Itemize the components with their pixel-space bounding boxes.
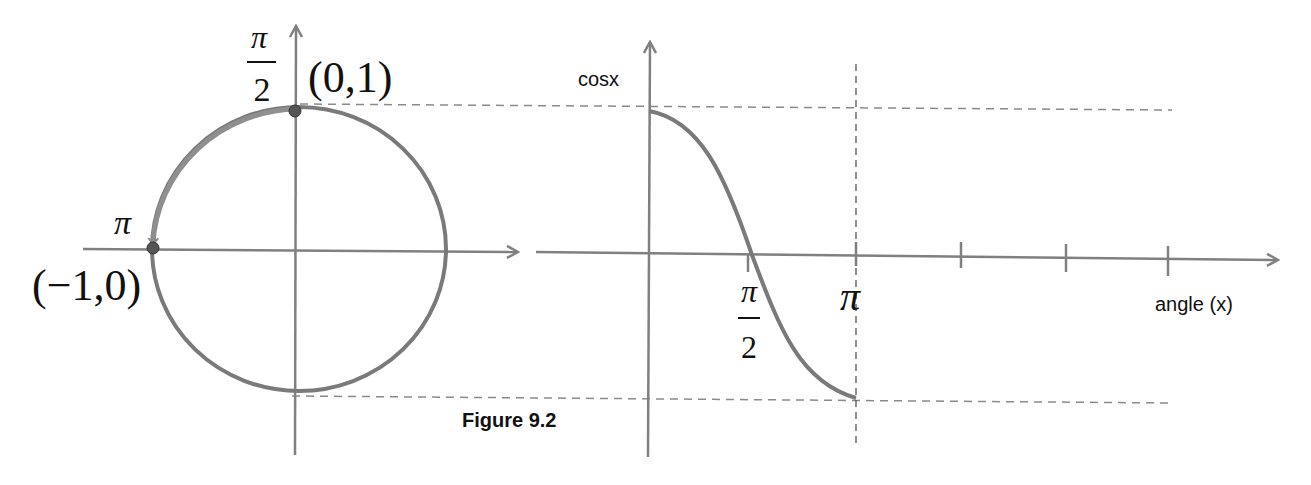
tick-label-half-pi-numerator: π bbox=[741, 273, 758, 309]
arc-arrow bbox=[153, 109, 297, 244]
tick-label-pi: π bbox=[840, 274, 861, 319]
y-axis-label: cosx bbox=[578, 68, 619, 90]
graph-y-axis bbox=[648, 42, 650, 457]
point-top bbox=[289, 105, 301, 117]
graph-x-axis bbox=[536, 252, 1278, 260]
figure-canvas: π 2 (0,1) π (−1,0) cosx angle (x) π 2 π … bbox=[0, 0, 1311, 485]
unit-circle-diagram: π 2 (0,1) π (−1,0) bbox=[32, 19, 518, 455]
reference-lines bbox=[292, 64, 1172, 448]
dashed-line-bottom bbox=[292, 396, 1172, 403]
left-angle-label: π bbox=[114, 204, 132, 241]
top-point-label: (0,1) bbox=[308, 53, 392, 102]
point-left bbox=[147, 242, 159, 254]
top-angle-numerator: π bbox=[251, 19, 268, 55]
figure-caption: Figure 9.2 bbox=[462, 409, 556, 431]
x-axis-label: angle (x) bbox=[1155, 293, 1233, 315]
tick-label-half-pi-denominator: 2 bbox=[741, 329, 757, 365]
left-point-label: (−1,0) bbox=[32, 261, 141, 310]
dashed-line-top bbox=[300, 104, 1172, 110]
top-angle-denominator: 2 bbox=[254, 71, 271, 108]
cosine-graph: cosx angle (x) π 2 π bbox=[536, 42, 1278, 457]
